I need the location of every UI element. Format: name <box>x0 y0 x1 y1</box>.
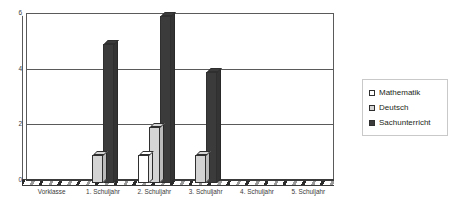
plot-area: 6420 Vorklasse1. Schuljahr2. Schuljahr3.… <box>0 0 348 215</box>
y-axis-tick-labels: 6420 <box>6 0 22 215</box>
x-axis-tick-labels: Vorklasse1. Schuljahr2. Schuljahr3. Schu… <box>26 188 334 202</box>
bar-group <box>231 16 282 183</box>
bar-front-face <box>92 155 103 183</box>
bar-groups <box>26 13 334 183</box>
legend-swatch-icon <box>369 90 375 96</box>
bar-side-face <box>206 151 210 183</box>
bar-side-face <box>103 151 107 183</box>
y-axis-tick-label: 2 <box>8 121 22 128</box>
bar-side-face <box>160 123 164 183</box>
bar-mathematik[interactable] <box>138 155 149 183</box>
x-axis-tick-label: 5. Schuljahr <box>283 188 334 196</box>
legend-swatch-icon <box>369 105 375 111</box>
bar-group <box>129 16 180 183</box>
legend-item-label: Mathematik <box>379 88 420 97</box>
legend-item-sachunterricht[interactable]: Sachunterricht <box>369 115 443 130</box>
bar-front-face <box>138 155 149 183</box>
bar-group-bars <box>77 16 128 183</box>
y-axis-tick-label: 6 <box>8 10 22 17</box>
x-axis-tick-label: 3. Schuljahr <box>180 188 231 196</box>
column-chart: 6420 Vorklasse1. Schuljahr2. Schuljahr3.… <box>0 0 454 215</box>
legend-item-mathematik[interactable]: Mathematik <box>369 85 443 100</box>
y-axis-tick-label: 4 <box>8 66 22 73</box>
bar-group <box>283 16 334 183</box>
bar-group-bars <box>26 16 77 183</box>
legend-swatch-icon <box>369 120 375 126</box>
bar-group-bars <box>231 16 282 183</box>
bar-front-face <box>195 155 206 183</box>
bar-group <box>77 16 128 183</box>
chart-floor-front-edge <box>26 180 334 181</box>
bar-group-bars <box>180 16 231 183</box>
x-axis-tick-label: Vorklasse <box>26 188 77 196</box>
bar-group <box>26 16 77 183</box>
bar-group-bars <box>129 16 180 183</box>
bar-group <box>180 16 231 183</box>
bar-side-face <box>114 40 118 183</box>
bar-side-face <box>171 12 175 183</box>
bar-deutsch[interactable] <box>195 155 206 183</box>
x-axis-tick-label: 1. Schuljahr <box>77 188 128 196</box>
bar-deutsch[interactable] <box>92 155 103 183</box>
bar-group-bars <box>283 16 334 183</box>
chart-legend: MathematikDeutschSachunterricht <box>362 79 448 136</box>
x-axis-tick-label: 2. Schuljahr <box>129 188 180 196</box>
x-axis-tick-label: 4. Schuljahr <box>231 188 282 196</box>
y-axis-tick-label: 0 <box>8 177 22 184</box>
bar-side-face <box>217 68 221 183</box>
legend-item-deutsch[interactable]: Deutsch <box>369 100 443 115</box>
legend-item-label: Sachunterricht <box>379 118 431 127</box>
bar-side-face <box>149 151 153 183</box>
legend-item-label: Deutsch <box>379 103 408 112</box>
